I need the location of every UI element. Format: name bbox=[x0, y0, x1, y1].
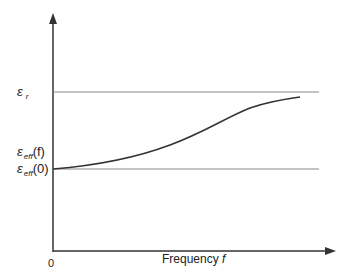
origin-label: 0 bbox=[48, 257, 54, 269]
diagram-canvas: εr εeff(f) εeff(0) 0 Frequency f bbox=[0, 0, 351, 274]
eeff-curve bbox=[53, 97, 300, 169]
x-axis-label: Frequency f bbox=[162, 252, 227, 266]
er-label: εr bbox=[17, 84, 29, 101]
y-axis-arrow-icon bbox=[49, 13, 57, 24]
eff-0-label: εeff(0) bbox=[17, 161, 49, 178]
x-axis-arrow-icon bbox=[325, 247, 336, 255]
eff-f-label: εeff(f) bbox=[17, 144, 45, 161]
